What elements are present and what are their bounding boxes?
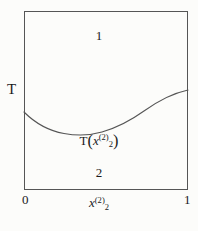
annotation-prefix: T [80,133,88,148]
curve-path [24,90,188,135]
region-label-2: 2 [0,166,198,179]
phase-diagram-figure: T 1 2 T(x(2)2) 0 1 x(2)2 [0,0,198,231]
annotation-superscript: (2) [99,132,109,142]
curve-annotation: T(x(2)2) [0,132,198,151]
region-label-1: 1 [0,29,198,42]
y-axis-label: T [7,82,16,97]
x-axis-label-superscript: (2) [95,195,105,205]
x-axis-label: x(2)2 [0,196,198,212]
annotation-close-paren: ) [113,132,118,150]
x-axis-label-subscript: 2 [105,202,109,212]
